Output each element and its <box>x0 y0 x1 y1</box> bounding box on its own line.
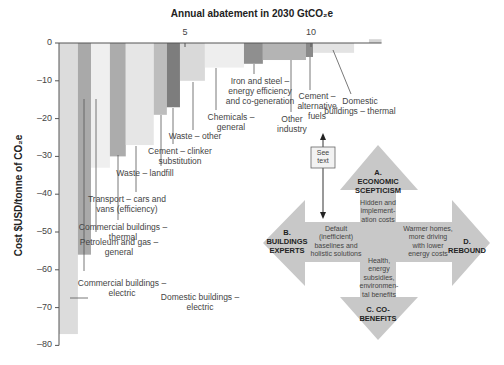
bar-label-commercial-thermal: Commercial buildings –thermal <box>58 222 188 242</box>
arrow-head-up-icon <box>320 133 326 140</box>
y-tick-label: –50 <box>18 226 52 237</box>
label-a-economic-scepticism: A.ECONOMICSCEPTICISM <box>340 168 416 195</box>
bar <box>154 43 167 115</box>
bar-label-waste-landfill: Waste – landfill <box>90 168 200 178</box>
x-tick-label: 10 <box>301 27 321 38</box>
abatement-cost-chart: Annual abatement in 2030 GtCO₂e Cost $US… <box>0 0 504 365</box>
bar <box>306 43 313 57</box>
y-tick-label: –30 <box>18 150 52 161</box>
bar <box>126 43 154 145</box>
bar <box>91 43 110 168</box>
see-text-label: Seetext <box>311 149 335 166</box>
bar-label-chemicals: Chemicals –general <box>196 112 266 132</box>
bar <box>167 43 180 107</box>
bar-label-domestic-thermal: Domesticbuildings – thermal <box>315 96 405 116</box>
bar <box>205 43 244 68</box>
bar <box>263 43 306 60</box>
bar <box>244 43 263 64</box>
y-tick-label: –20 <box>18 113 52 124</box>
text-c-health-benefits: Health,energysubsidies,environmen-tal be… <box>357 257 401 299</box>
text-a-hidden-costs: Hidden andimplement-ation costs <box>355 199 401 224</box>
arrow-head-down-icon <box>320 212 326 219</box>
leader-line <box>333 50 351 94</box>
y-tick-label: –80 <box>18 339 52 350</box>
label-c-co-benefits: C. CO-BENEFITS <box>350 305 406 323</box>
x-tick-label: 5 <box>175 27 195 38</box>
bar <box>180 43 205 81</box>
bar-label-transport: Transport – cars andvans (efficiency) <box>72 194 182 214</box>
y-tick-label: –40 <box>18 188 52 199</box>
bar-label-waste-other: Waste – other <box>150 131 240 141</box>
text-b-default-baselines: Default(inefficient)baselines andholisti… <box>305 225 367 259</box>
y-tick-label: –70 <box>18 302 52 313</box>
y-tick-label: 0 <box>18 37 52 48</box>
y-tick-label: –10 <box>18 75 52 86</box>
bar-label-cement-clinker: Cement – clinkersubstitution <box>135 146 225 166</box>
bar <box>110 43 126 156</box>
bar-label-commercial-electric: Commercial buildings –electric <box>62 278 182 298</box>
y-tick-label: –60 <box>18 264 52 275</box>
bar <box>369 39 382 43</box>
text-d-warmer-homes: Warmer homes,more drivingwith lowerenerg… <box>398 225 458 259</box>
